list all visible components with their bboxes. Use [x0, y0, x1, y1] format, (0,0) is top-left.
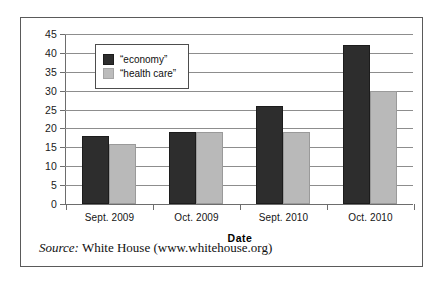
y-axis-tick [60, 147, 65, 148]
y-axis-tick-label: 45 [45, 28, 57, 40]
y-axis-tick-label: 5 [51, 179, 57, 191]
category-tick [153, 204, 154, 210]
source-caption: Source: White House (www.whitehouse.org) [39, 240, 272, 256]
category-tick [66, 204, 67, 210]
y-axis-tick [60, 128, 65, 129]
y-axis-tick-label: 30 [45, 85, 57, 97]
legend-item: “economy” [103, 54, 176, 65]
legend-label-health-care: “health care” [120, 68, 176, 79]
legend-swatch-health-care [103, 68, 114, 79]
y-axis-tick [60, 166, 65, 167]
y-axis-tick-label: 10 [45, 160, 57, 172]
y-axis-tick [60, 72, 65, 73]
y-axis-tick-label: 35 [45, 66, 57, 78]
y-axis-tick-label: 25 [45, 104, 57, 116]
category-label: Sept. 2010 [240, 212, 327, 223]
bar [169, 132, 196, 204]
bar [196, 132, 223, 204]
source-text: White House (www.whitehouse.org) [82, 240, 272, 255]
legend-label-economy: “economy” [120, 54, 167, 65]
legend-swatch-economy [103, 54, 114, 65]
figure-frame: 454035302520151050 Sept. 2009Oct. 2009Se… [20, 17, 423, 267]
y-axis-tick-label: 40 [45, 47, 57, 59]
category-axis-labels: Sept. 2009Oct. 2009Sept. 2010Oct. 2010 [66, 212, 414, 223]
bar [82, 136, 109, 204]
bar [283, 132, 310, 204]
y-axis-tick [60, 34, 65, 35]
category-axis-ticks [66, 204, 414, 210]
y-axis-tick [60, 91, 65, 92]
y-axis-tick [60, 110, 65, 111]
y-axis-tick-label: 15 [45, 141, 57, 153]
category-label: Oct. 2010 [327, 212, 414, 223]
bar [109, 144, 136, 204]
category-label: Sept. 2009 [66, 212, 153, 223]
bar-group [326, 34, 413, 204]
category-tick [240, 204, 241, 210]
y-axis-tick [60, 53, 65, 54]
y-axis-tick [60, 185, 65, 186]
chart-legend: “economy” “health care” [95, 44, 189, 89]
y-axis-tick-label: 20 [45, 122, 57, 134]
category-tick [327, 204, 328, 210]
y-axis-tick [60, 204, 65, 205]
legend-item: “health care” [103, 68, 176, 79]
y-axis-tick-label: 0 [51, 198, 57, 210]
source-label: Source: [39, 240, 79, 255]
category-tick [414, 204, 415, 210]
bar-group [240, 34, 327, 204]
bar [370, 91, 397, 204]
bar [256, 106, 283, 204]
bar [343, 45, 370, 204]
category-label: Oct. 2009 [153, 212, 240, 223]
